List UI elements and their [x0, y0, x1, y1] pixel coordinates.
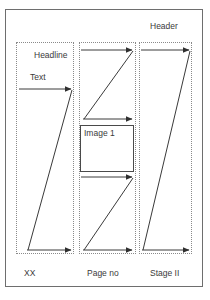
- diagram-canvas: Image 1 Header Headline Text XX Page no …: [0, 0, 210, 300]
- headline-label: Headline: [34, 50, 68, 60]
- column-footer-label-left: XX: [24, 268, 35, 278]
- image-placeholder-box: Image 1: [80, 125, 134, 172]
- column-footer-label-right: Stage II: [150, 268, 179, 278]
- column-region-right: [139, 42, 192, 254]
- image-placeholder-label: Image 1: [84, 128, 115, 138]
- column-footer-label-middle: Page no: [87, 268, 119, 278]
- text-label: Text: [30, 72, 46, 82]
- header-label: Header: [150, 21, 178, 31]
